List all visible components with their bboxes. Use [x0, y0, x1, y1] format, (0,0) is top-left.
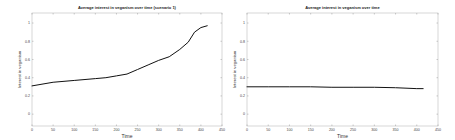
- y-tick-label: 0.6: [240, 58, 245, 62]
- x-tick-label: 400: [198, 128, 204, 132]
- x-tick-label: 200: [113, 128, 119, 132]
- x-tick-label: 200: [329, 128, 335, 132]
- x-tick-label: 250: [350, 128, 356, 132]
- x-tick-label: 0: [246, 128, 248, 132]
- x-tick-label: 250: [135, 128, 141, 132]
- y-tick-label: 0: [243, 112, 245, 116]
- x-tick-label: 50: [266, 128, 270, 132]
- series-line: [247, 87, 423, 89]
- y-tick-label: 0.8: [25, 40, 30, 44]
- y-axis-label: Interest in veganism: [17, 50, 22, 88]
- x-tick-label: 100: [286, 128, 292, 132]
- x-axis-label: Time: [337, 133, 348, 139]
- x-tick-label: 150: [92, 128, 98, 132]
- chart-title: Average interest in veganism over time (…: [78, 5, 177, 10]
- chart-right: Average interest in veganism over time05…: [230, 0, 455, 140]
- chart-left-svg: Average interest in veganism over time (…: [0, 0, 230, 140]
- y-tick-label: 0.6: [25, 58, 30, 62]
- x-tick-label: 400: [414, 128, 420, 132]
- y-tick-label: 0.8: [240, 40, 245, 44]
- x-tick-label: 100: [71, 128, 77, 132]
- x-tick-label: 350: [393, 128, 399, 132]
- y-tick-label: 0.2: [25, 94, 30, 98]
- x-tick-label: 350: [177, 128, 183, 132]
- chart-right-svg: Average interest in veganism over time05…: [230, 0, 455, 140]
- chart-left: Average interest in veganism over time (…: [0, 0, 230, 140]
- x-tick-label: 450: [435, 128, 441, 132]
- y-tick-label: 1: [28, 21, 30, 25]
- x-tick-label: 450: [219, 128, 225, 132]
- x-tick-label: 50: [51, 128, 55, 132]
- x-axis-label: Time: [122, 133, 133, 139]
- plot-area: [247, 13, 438, 126]
- chart-title: Average interest in veganism over time: [305, 5, 380, 10]
- y-tick-label: 0: [28, 112, 30, 116]
- x-tick-label: 300: [371, 128, 377, 132]
- series-line: [32, 26, 207, 86]
- y-tick-label: 0.2: [240, 94, 245, 98]
- x-tick-label: 300: [156, 128, 162, 132]
- x-tick-label: 0: [31, 128, 33, 132]
- plot-area: [32, 13, 222, 126]
- y-tick-label: 1: [243, 21, 245, 25]
- y-tick-label: 0.4: [25, 76, 30, 80]
- y-axis-label: Interest in veganism: [232, 50, 237, 88]
- y-tick-label: 0.4: [240, 76, 245, 80]
- x-tick-label: 150: [308, 128, 314, 132]
